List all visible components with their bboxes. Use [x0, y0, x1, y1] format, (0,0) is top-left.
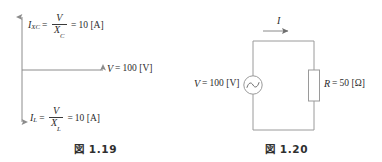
capacitive-current-subscript: XC [31, 24, 40, 31]
resistor-body [309, 70, 320, 101]
inductive-current-denominator-subscript: L [57, 125, 61, 132]
resistance-equals: = [332, 79, 337, 89]
inductive-current-subscript: L [33, 117, 37, 124]
resistance-symbol: R [324, 79, 330, 89]
current-symbol: I [277, 16, 280, 26]
voltage-equals: = [115, 64, 120, 74]
label-resistance: R = 50 [Ω] [324, 79, 365, 89]
capacitive-current-fraction: V XC [52, 13, 67, 38]
label-source-voltage: V = 100 [V] [194, 79, 239, 89]
source-voltage-equals: = [202, 79, 207, 89]
capacitive-current-value: 10 [78, 21, 88, 31]
resistance-unit: [Ω] [351, 79, 364, 89]
capacitive-current-unit: [A] [90, 21, 103, 31]
voltage-unit: [V] [139, 64, 152, 74]
inductive-current-denominator: XL [49, 118, 63, 131]
figure-circuit-diagram: I V = 100 [V] R = 50 [Ω] 図 1.20 [191, 0, 382, 162]
circuit-schematic [191, 0, 382, 140]
caption-prefix: 図 [265, 143, 276, 155]
capacitive-current-numerator: V [54, 13, 64, 24]
capacitive-current-result-equals: = [71, 21, 76, 31]
source-voltage-symbol: V [194, 79, 200, 89]
caption-number: 1.20 [280, 143, 308, 155]
inductive-current-numerator: V [51, 106, 61, 117]
inductive-current-value: 10 [75, 114, 85, 124]
inductive-current-result-equals: = [67, 114, 72, 124]
inductive-current-equals: = [39, 114, 44, 124]
inductive-current-unit: [A] [87, 114, 100, 124]
label-inductive-current: IL= V XL = 10 [A] [30, 106, 100, 131]
capacitive-current-denominator-subscript: C [60, 32, 65, 39]
caption-number: 1.19 [89, 143, 117, 155]
inductive-current-fraction: V XL [49, 106, 63, 131]
voltage-value: 100 [122, 64, 136, 74]
source-voltage-value: 100 [209, 79, 223, 89]
voltage-symbol: V [107, 64, 113, 74]
label-capacitive-current: IXC= V XC = 10 [A] [28, 13, 104, 38]
caption-prefix: 図 [74, 143, 85, 155]
label-current: I [277, 16, 280, 26]
capacitive-current-denominator: XC [52, 25, 67, 38]
capacitive-current-equals: = [42, 21, 47, 31]
caption-figure-1-19: 図 1.19 [0, 141, 191, 156]
resistance-value: 50 [339, 79, 349, 89]
figure-phasor-diagram: IXC= V XC = 10 [A] V = 100 [V] IL= V XL [0, 0, 191, 162]
phasor-canvas: IXC= V XC = 10 [A] V = 100 [V] IL= V XL [0, 0, 191, 162]
circuit-canvas: I V = 100 [V] R = 50 [Ω] 図 1.20 [191, 0, 382, 162]
caption-figure-1-20: 図 1.20 [191, 141, 382, 156]
label-voltage: V = 100 [V] [107, 64, 152, 74]
source-voltage-unit: [V] [226, 79, 239, 89]
